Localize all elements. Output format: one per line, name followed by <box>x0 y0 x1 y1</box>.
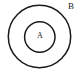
set-label-b: B <box>68 1 74 11</box>
venn-diagram: B A <box>0 0 82 74</box>
set-label-a: A <box>37 31 43 40</box>
venn-diagram-canvas: B A <box>0 0 82 74</box>
